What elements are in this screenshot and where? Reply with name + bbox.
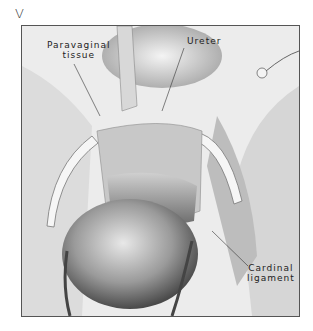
label-line: ligament (247, 273, 295, 283)
label-line: Paravaginal (47, 40, 111, 50)
label-line: Cardinal (247, 263, 295, 273)
label-ureter: Ureter (187, 36, 221, 46)
label-cardinal-ligament: Cardinal ligament (247, 263, 295, 283)
illustration-frame: Paravaginal tissue Ureter Cardinal ligam… (21, 25, 300, 317)
panel-letter: V (15, 6, 24, 21)
label-paravaginal-tissue: Paravaginal tissue (47, 40, 111, 60)
label-line: tissue (47, 50, 111, 60)
